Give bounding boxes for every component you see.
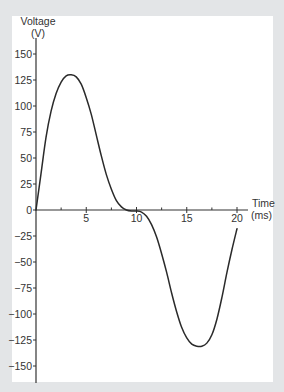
x-tick-label: 20 (231, 212, 243, 224)
axes (36, 38, 248, 383)
series-group (36, 75, 237, 347)
y-tick-label: −25 (14, 230, 32, 242)
series-line-voltage (36, 75, 237, 347)
x-axis-label: Time (252, 197, 275, 209)
x-axis-unit: (ms) (251, 209, 272, 221)
y-tick-label: 100 (14, 100, 32, 112)
y-tick-label: 25 (20, 178, 32, 190)
y-tick-label: 50 (20, 152, 32, 164)
x-tick-label: 15 (181, 212, 193, 224)
x-tick-label: 10 (131, 212, 143, 224)
x-tick-label: 5 (83, 212, 89, 224)
y-axis-label: Voltage (20, 15, 55, 27)
y-tick-label: 0 (26, 204, 32, 216)
voltage-time-chart: 1501251007550250−25−50−75−100−125−150 51… (0, 0, 284, 392)
y-tick-label: 125 (14, 74, 32, 86)
y-axis-unit: (V) (31, 27, 45, 39)
y-tick-label: −75 (14, 282, 32, 294)
y-tick-label: −50 (14, 256, 32, 268)
y-tick-label: −150 (8, 360, 32, 372)
y-tick-label: 75 (20, 126, 32, 138)
y-tick-label: −125 (8, 334, 32, 346)
y-ticks: 1501251007550250−25−50−75−100−125−150 (8, 48, 36, 372)
y-tick-label: −100 (8, 308, 32, 320)
y-tick-label: 150 (14, 48, 32, 60)
